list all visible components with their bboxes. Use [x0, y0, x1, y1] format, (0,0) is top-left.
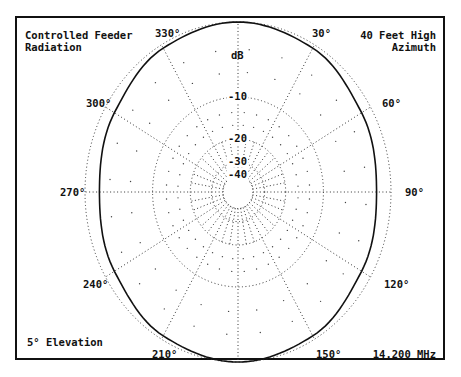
grid-dot	[243, 125, 244, 126]
grid-dot	[130, 181, 131, 182]
grid-dot	[296, 237, 297, 238]
grid-fine-radial-130	[249, 203, 274, 226]
grid-dot	[358, 240, 359, 241]
grid-dot	[320, 114, 321, 115]
grid-dot	[222, 127, 223, 128]
grid-dot	[344, 170, 345, 171]
subtitle-line-2: Azimuth	[392, 41, 436, 53]
grid-fine-radial-100	[253, 195, 285, 201]
grid-dot	[139, 283, 140, 284]
grid-dot	[149, 123, 150, 124]
grid-dot	[309, 198, 310, 199]
grid-dot	[365, 204, 366, 205]
grid-fine-radial-220	[207, 205, 228, 233]
grid-dot	[207, 119, 208, 120]
angle-label-210: 210°	[152, 348, 177, 360]
grid-dot	[155, 268, 156, 269]
radial-label-40: -40	[227, 168, 248, 180]
grid-dot	[243, 258, 244, 259]
grid-fine-radial-140	[248, 205, 269, 233]
grid-dot	[228, 311, 229, 312]
grid-dot	[222, 256, 223, 257]
title-line-2: Radiation	[25, 41, 82, 53]
grid-fine-radial-190	[230, 208, 236, 244]
grid-dot	[295, 174, 296, 175]
grid-spoke-30	[245, 45, 314, 178]
grid-dot	[109, 179, 110, 180]
angle-label-330: 330°	[155, 27, 180, 39]
angle-label-120: 120°	[384, 278, 409, 290]
frequency-label: 14.200 MHz	[373, 348, 436, 360]
grid-dot	[288, 248, 289, 249]
grid-dot	[232, 258, 233, 259]
grid-dot	[260, 332, 261, 333]
grid-dot	[296, 146, 297, 147]
grid-dot	[177, 185, 178, 186]
grid-dot	[172, 158, 173, 159]
grid-dot	[244, 112, 245, 113]
grid-dot	[219, 114, 220, 115]
grid-dot	[215, 51, 216, 52]
grid-dot	[297, 185, 298, 186]
grid-dot	[307, 171, 308, 172]
radial-label-20: -20	[227, 132, 248, 144]
angle-label-270: 270°	[60, 186, 85, 198]
grid-dot	[212, 252, 213, 253]
grid-dot	[288, 135, 289, 136]
grid-dot	[278, 126, 279, 127]
grid-dot	[263, 131, 264, 132]
grid-dot	[136, 150, 137, 151]
grid-dot	[302, 158, 303, 159]
grid-fine-radial-250	[193, 198, 224, 210]
grid-dot	[307, 212, 308, 213]
grid-dot	[256, 309, 257, 310]
grid-fine-radial-260	[191, 195, 223, 201]
grid-dot	[117, 142, 118, 143]
grid-dot	[179, 174, 180, 175]
grid-dot	[309, 184, 310, 185]
grid-dot	[335, 141, 336, 142]
grid-dot	[207, 264, 208, 265]
grid-dot	[164, 308, 165, 309]
grid-dot	[292, 163, 293, 164]
grid-dot	[203, 246, 204, 247]
grid-dot	[299, 93, 300, 94]
grid-dot	[292, 321, 293, 322]
grid-dot	[219, 268, 220, 269]
grid-dot	[354, 131, 355, 132]
grid-fine-radial-80	[253, 183, 285, 189]
grid-dot	[192, 83, 193, 84]
grid-spoke-300	[105, 107, 225, 184]
grid-fine-radial-290	[193, 174, 224, 186]
grid-dot	[336, 100, 337, 101]
grid-dot	[196, 126, 197, 127]
angle-label-90: 90°	[405, 186, 424, 198]
grid-dot	[339, 232, 340, 233]
grid-dot	[121, 252, 122, 253]
grid-dot	[203, 136, 204, 137]
grid-dot	[166, 198, 167, 199]
grid-dot	[131, 212, 132, 213]
grid-dot	[364, 167, 365, 168]
grid-dot	[281, 57, 282, 58]
grid-dot	[166, 184, 167, 185]
grid-dot	[179, 209, 180, 210]
grid-dot	[212, 131, 213, 132]
grid-fine-radial-230	[201, 203, 226, 226]
grid-dot	[231, 271, 232, 272]
grid-spoke-330	[162, 45, 231, 178]
grid-dot	[196, 257, 197, 258]
grid-dot	[326, 260, 327, 261]
grid-dot	[172, 225, 173, 226]
grid-dot	[283, 300, 284, 301]
grid-spoke-210	[162, 206, 231, 339]
grid-fine-radial-280	[191, 183, 223, 189]
grid-fine-radial-50	[249, 158, 274, 181]
grid-dot	[268, 119, 269, 120]
grid-dot	[280, 144, 281, 145]
grid-dot	[287, 230, 288, 231]
grid-dot	[175, 289, 176, 290]
angle-label-240: 240°	[83, 278, 108, 290]
grid-dot	[183, 62, 184, 63]
grid-dot	[292, 220, 293, 221]
